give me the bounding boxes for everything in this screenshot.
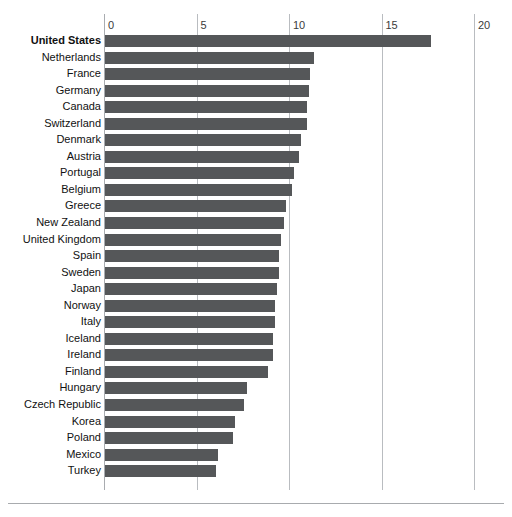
bar-category-label: Portugal bbox=[0, 166, 101, 179]
bar-category-label: Ireland bbox=[0, 348, 101, 361]
bar bbox=[105, 250, 279, 262]
bar-category-label: Norway bbox=[0, 299, 101, 312]
x-tick-label-1: 5 bbox=[197, 19, 207, 31]
bar bbox=[105, 465, 216, 477]
footer-divider bbox=[8, 503, 504, 504]
x-tick-label-4: 20 bbox=[474, 19, 490, 31]
bar bbox=[105, 52, 314, 64]
table-row: Finland bbox=[0, 364, 512, 381]
bar-category-label: Korea bbox=[0, 415, 101, 428]
x-tick-label-3: 15 bbox=[382, 19, 398, 31]
bar bbox=[105, 234, 281, 246]
bar bbox=[105, 366, 268, 378]
bar-category-label: Mexico bbox=[0, 448, 101, 461]
bar-chart: 0 5 10 15 20 United StatesNetherlandsFra… bbox=[0, 0, 512, 517]
bar bbox=[105, 416, 235, 428]
table-row: Portugal bbox=[0, 165, 512, 182]
table-row: Japan bbox=[0, 281, 512, 298]
table-row: Denmark bbox=[0, 132, 512, 149]
bar-category-label: Denmark bbox=[0, 133, 101, 146]
bar bbox=[105, 382, 247, 394]
bar-category-label: Hungary bbox=[0, 381, 101, 394]
bar bbox=[105, 349, 273, 361]
table-row: Switzerland bbox=[0, 116, 512, 133]
bar bbox=[105, 101, 307, 113]
table-row: Poland bbox=[0, 430, 512, 447]
bar-category-label: Switzerland bbox=[0, 117, 101, 130]
bar bbox=[105, 316, 275, 328]
bar bbox=[105, 151, 299, 163]
bar bbox=[105, 217, 284, 229]
bar bbox=[105, 118, 307, 130]
bar-rows: United StatesNetherlandsFranceGermanyCan… bbox=[0, 33, 512, 480]
bar-category-label: Germany bbox=[0, 84, 101, 97]
table-row: Iceland bbox=[0, 331, 512, 348]
bar bbox=[105, 432, 233, 444]
x-tick-label-2: 10 bbox=[289, 19, 305, 31]
bar bbox=[105, 167, 294, 179]
bar-category-label: Canada bbox=[0, 100, 101, 113]
bar-category-label: Sweden bbox=[0, 266, 101, 279]
bar-category-label: Greece bbox=[0, 199, 101, 212]
x-tick-label-0: 0 bbox=[104, 19, 114, 31]
table-row: France bbox=[0, 66, 512, 83]
bar-category-label: Japan bbox=[0, 282, 101, 295]
table-row: Greece bbox=[0, 198, 512, 215]
bar-category-label: Poland bbox=[0, 431, 101, 444]
bar bbox=[105, 300, 275, 312]
table-row: New Zealand bbox=[0, 215, 512, 232]
table-row: United States bbox=[0, 33, 512, 50]
bar bbox=[105, 283, 277, 295]
table-row: Norway bbox=[0, 298, 512, 315]
bar bbox=[105, 68, 310, 80]
bar-category-label: Spain bbox=[0, 249, 101, 262]
table-row: Ireland bbox=[0, 347, 512, 364]
table-row: Belgium bbox=[0, 182, 512, 199]
bar bbox=[105, 449, 218, 461]
table-row: Spain bbox=[0, 248, 512, 265]
table-row: Korea bbox=[0, 414, 512, 431]
bar bbox=[105, 333, 273, 345]
bar bbox=[105, 35, 431, 47]
bar bbox=[105, 200, 286, 212]
bar-category-label: United Kingdom bbox=[0, 233, 101, 246]
bar-category-label: Austria bbox=[0, 150, 101, 163]
bar bbox=[105, 85, 309, 97]
bar-category-label: France bbox=[0, 67, 101, 80]
table-row: Mexico bbox=[0, 447, 512, 464]
bar-category-label: Netherlands bbox=[0, 51, 101, 64]
bar bbox=[105, 184, 292, 196]
bar bbox=[105, 267, 279, 279]
table-row: Germany bbox=[0, 83, 512, 100]
table-row: Austria bbox=[0, 149, 512, 166]
table-row: Netherlands bbox=[0, 50, 512, 67]
table-row: Sweden bbox=[0, 265, 512, 282]
bar bbox=[105, 134, 301, 146]
bar bbox=[105, 399, 244, 411]
table-row: Hungary bbox=[0, 380, 512, 397]
bar-category-label: Czech Republic bbox=[0, 398, 101, 411]
table-row: Turkey bbox=[0, 463, 512, 480]
bar-category-label: Italy bbox=[0, 315, 101, 328]
table-row: Canada bbox=[0, 99, 512, 116]
bar-category-label: Belgium bbox=[0, 183, 101, 196]
bar-category-label: United States bbox=[0, 34, 101, 47]
bar-category-label: Iceland bbox=[0, 332, 101, 345]
bar-category-label: Finland bbox=[0, 365, 101, 378]
table-row: Italy bbox=[0, 314, 512, 331]
bar-category-label: New Zealand bbox=[0, 216, 101, 229]
table-row: Czech Republic bbox=[0, 397, 512, 414]
table-row: United Kingdom bbox=[0, 232, 512, 249]
bar-category-label: Turkey bbox=[0, 464, 101, 477]
